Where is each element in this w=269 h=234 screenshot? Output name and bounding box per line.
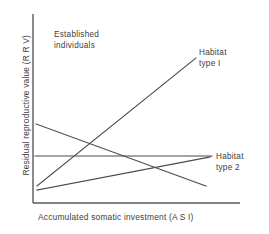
series-label-habitat-type-2: Habitat type 2 (216, 152, 269, 173)
y-axis-label: Residual reproductive value (R R V) (21, 25, 32, 185)
series-label-habitat-type-1: Habitat type I (199, 48, 261, 69)
series-line-habitat-2-rising (37, 157, 210, 190)
chart-canvas (0, 0, 269, 234)
annotation-established-individuals: Established individuals (54, 30, 134, 51)
series-line-habitat-1-rising (37, 58, 196, 186)
figure-container: Residual reproductive value (R R V) Accu… (0, 0, 269, 234)
data-lines-group (35, 58, 212, 190)
series-line-declining (36, 124, 206, 186)
x-axis-label: Accumulated somatic investment (A S I) (38, 212, 248, 223)
